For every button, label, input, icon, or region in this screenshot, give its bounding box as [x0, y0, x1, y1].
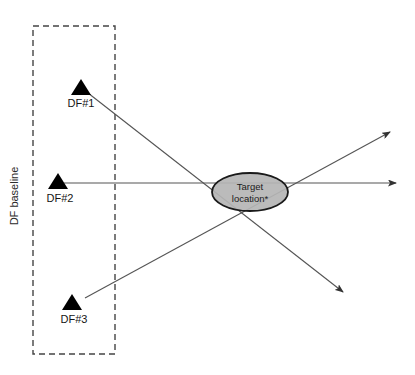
target-location-ellipse	[212, 173, 288, 211]
station-marker-df2	[48, 173, 68, 189]
target-label-line1: Target	[237, 181, 264, 192]
target-label-line2: location*	[232, 193, 269, 204]
station-label-df2: DF#2	[47, 192, 74, 204]
df-triangulation-diagram: DF baseline Target location* DF#1 DF#2 D…	[0, 0, 415, 375]
station-label-df1: DF#1	[68, 97, 95, 109]
diagram-canvas: DF baseline Target location* DF#1 DF#2 D…	[0, 0, 415, 375]
station-label-df3: DF#3	[61, 313, 88, 325]
station-marker-df3	[62, 294, 82, 310]
bearing-line-df3	[85, 132, 390, 298]
station-marker-df1	[71, 79, 91, 95]
df-baseline-label: DF baseline	[8, 167, 20, 226]
